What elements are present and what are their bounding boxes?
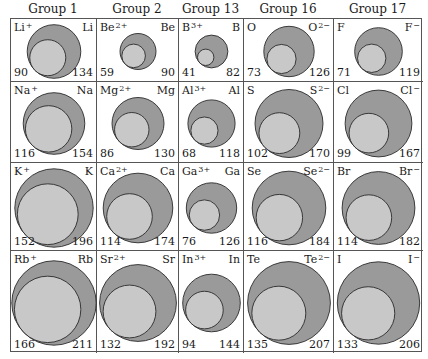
- element-symbol: Cl: [337, 84, 349, 97]
- element-cell: OO2−73126: [244, 19, 334, 82]
- right-label: Ga: [225, 166, 240, 178]
- right-radius-value: 134: [72, 67, 93, 79]
- element-cell: B3+B4182: [179, 19, 244, 82]
- right-label: K: [85, 166, 93, 178]
- element-symbol: Be: [160, 21, 175, 34]
- right-label: Rb: [78, 254, 93, 266]
- right-radius-value: 196: [72, 236, 93, 248]
- element-symbol: Sr: [100, 253, 113, 266]
- element-cell: Mg2+Mg86130: [97, 82, 179, 163]
- element-cell: FF−71119: [334, 19, 423, 82]
- right-radius-value: 154: [72, 148, 93, 160]
- right-radius-value: 170: [309, 148, 330, 160]
- smaller-radius-circle: [191, 117, 218, 144]
- element-cell: Rb+Rb166211: [11, 251, 97, 353]
- left-radius-value: 166: [14, 339, 35, 351]
- element-symbol: Te: [304, 253, 317, 266]
- right-label: Be: [160, 22, 175, 34]
- left-radius-value: 135: [247, 339, 268, 351]
- right-label: Li: [82, 22, 93, 34]
- element-symbol: Sr: [162, 253, 175, 266]
- element-symbol: Rb: [14, 253, 29, 266]
- left-label: Mg2+: [100, 85, 131, 97]
- smaller-radius-circle: [252, 286, 306, 340]
- element-symbol: In: [182, 253, 193, 266]
- right-label: F−: [405, 22, 420, 34]
- left-label: In3+: [182, 254, 206, 266]
- left-radius-value: 41: [182, 67, 196, 79]
- left-radius-value: 90: [14, 67, 28, 79]
- charge: +: [23, 165, 30, 174]
- right-label: B: [232, 22, 240, 34]
- smaller-radius-circle: [107, 194, 153, 240]
- charge: 2+: [116, 21, 128, 30]
- left-label: I: [337, 254, 341, 266]
- smaller-radius-circle: [189, 200, 219, 230]
- right-radius-value: 144: [219, 339, 240, 351]
- element-cell: TeTe2−135207: [244, 251, 334, 353]
- element-symbol: O: [308, 21, 317, 34]
- element-symbol: Se: [303, 165, 317, 178]
- right-radius-value: 118: [219, 148, 240, 160]
- element-symbol: Te: [247, 253, 260, 266]
- left-label: Cl: [337, 85, 349, 97]
- left-label: Be2+: [100, 22, 127, 34]
- charge: 3+: [191, 21, 203, 30]
- left-label: K+: [14, 166, 30, 178]
- left-label: O: [247, 22, 256, 34]
- element-symbol: Be: [100, 21, 115, 34]
- charge: −: [413, 165, 420, 174]
- left-radius-value: 73: [247, 67, 261, 79]
- left-label: Rb+: [14, 254, 37, 266]
- charge: +: [30, 253, 37, 262]
- charge: −: [413, 21, 420, 30]
- left-label: Li+: [14, 22, 33, 34]
- element-symbol: Cl: [400, 84, 412, 97]
- left-label: Te: [247, 254, 260, 266]
- element-cell: SS2−102170: [244, 82, 334, 163]
- smaller-radius-circle: [14, 276, 80, 342]
- element-cell: Na+Na116154: [11, 82, 97, 163]
- smaller-radius-circle: [186, 291, 224, 329]
- smaller-radius-circle: [358, 44, 386, 72]
- element-symbol: Ca: [160, 165, 175, 178]
- element-symbol: Br: [337, 165, 350, 178]
- left-radius-value: 114: [337, 236, 358, 248]
- right-radius-value: 82: [226, 67, 240, 79]
- element-cell: In3+In94144: [179, 251, 244, 353]
- left-label: Al3+: [182, 85, 206, 97]
- charge: 2−: [318, 21, 330, 30]
- charge: −: [413, 253, 420, 262]
- right-label: Ca: [160, 166, 175, 178]
- charge: 3+: [194, 253, 206, 262]
- left-radius-value: 152: [14, 236, 35, 248]
- right-radius-value: 90: [161, 67, 175, 79]
- left-label: Ca2+: [100, 166, 128, 178]
- charge: 2−: [318, 84, 330, 93]
- group-header: Group 16: [243, 1, 333, 17]
- left-radius-value: 116: [247, 236, 268, 248]
- charge: +: [31, 84, 38, 93]
- element-symbol: Se: [247, 165, 261, 178]
- element-symbol: B: [232, 21, 240, 34]
- charge: 3+: [194, 84, 206, 93]
- element-symbol: Al: [229, 84, 240, 97]
- left-label: Ga3+: [182, 166, 210, 178]
- radii-table: Li+Li90134Be2+Be5990B3+B4182OO2−73126FF−…: [10, 18, 422, 352]
- element-cell: II−133206: [334, 251, 423, 353]
- charge: +: [26, 21, 33, 30]
- element-symbol: Ca: [100, 165, 115, 178]
- element-symbol: Rb: [78, 253, 93, 266]
- element-symbol: Na: [14, 84, 30, 97]
- right-label: Se2−: [303, 166, 330, 178]
- charge: 2+: [116, 165, 128, 174]
- element-symbol: In: [229, 253, 240, 266]
- left-radius-value: 68: [182, 148, 196, 160]
- left-radius-value: 102: [247, 148, 268, 160]
- smaller-radius-circle: [346, 195, 392, 241]
- charge: 2+: [114, 253, 126, 262]
- smaller-radius-circle: [30, 40, 66, 76]
- right-radius-value: 174: [154, 236, 175, 248]
- left-label: B3+: [182, 22, 203, 34]
- element-symbol: Ga: [225, 165, 240, 178]
